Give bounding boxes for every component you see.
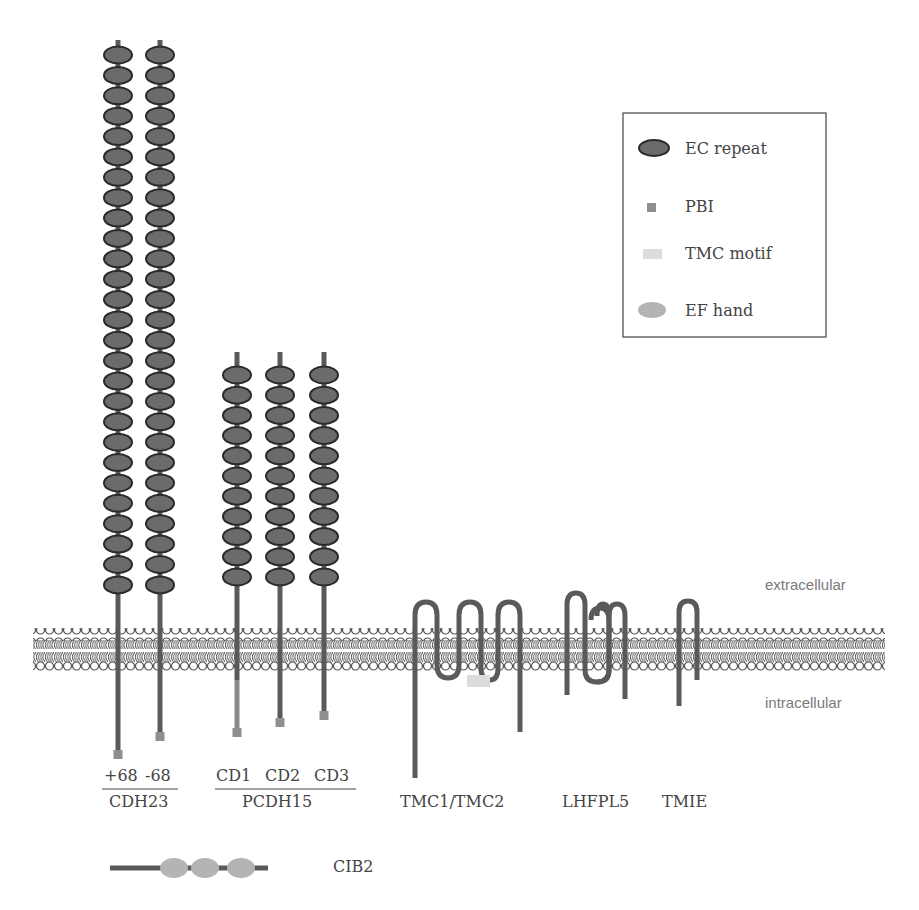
ec-repeat <box>104 250 132 267</box>
ec-repeat <box>266 528 294 545</box>
ec-repeat <box>146 576 174 593</box>
ec-repeat <box>146 536 174 553</box>
ec-repeat <box>104 454 132 471</box>
ec-repeat <box>146 434 174 451</box>
ef-hand-1 <box>160 858 188 878</box>
ec-repeat <box>310 427 338 444</box>
ec-repeat <box>223 508 251 525</box>
ec-repeat <box>146 454 174 471</box>
ec-repeat <box>146 210 174 227</box>
ec-repeat <box>104 393 132 410</box>
pcdh15-cd1-strand <box>223 352 251 737</box>
ec-repeat <box>104 67 132 84</box>
ec-repeat <box>310 528 338 545</box>
ec-repeat <box>104 434 132 451</box>
tmc-label: TMC1/TMC2 <box>400 792 504 811</box>
ec-repeat <box>104 515 132 532</box>
ec-repeat <box>223 569 251 586</box>
tmc-motif-legend-icon <box>643 249 662 259</box>
ec-repeat <box>223 488 251 505</box>
ec-repeat <box>146 332 174 349</box>
ec-repeat <box>104 413 132 430</box>
ec-repeat <box>266 367 294 384</box>
ec-repeat <box>223 528 251 545</box>
ec-repeat <box>266 488 294 505</box>
mechanotransduction-complex-diagram: extracellular intracellular +68 -68 CDH2… <box>0 0 919 910</box>
ec-repeat <box>146 230 174 247</box>
ec-repeat <box>146 189 174 206</box>
ec-repeat <box>146 271 174 288</box>
ec-repeat <box>310 569 338 586</box>
ec-repeat <box>266 508 294 525</box>
cdh23-isoform-plus68: +68 <box>104 766 138 785</box>
ec-repeat <box>104 352 132 369</box>
ec-repeat <box>223 387 251 404</box>
ec-repeat <box>104 148 132 165</box>
ec-repeat <box>104 576 132 593</box>
pcdh15-isoform-cd1: CD1 <box>216 766 251 785</box>
pbi-domain <box>156 732 165 741</box>
ec-repeat <box>146 250 174 267</box>
legend-pbi: PBI <box>685 197 714 216</box>
legend-ec-repeat: EC repeat <box>685 139 767 158</box>
ec-repeat <box>146 474 174 491</box>
ec-repeat <box>310 468 338 485</box>
ec-repeat <box>146 515 174 532</box>
ec-repeat <box>146 495 174 512</box>
pcdh15-label: PCDH15 <box>242 792 312 811</box>
pbi-legend-icon <box>647 203 656 212</box>
ec-repeat <box>266 387 294 404</box>
ec-repeat <box>104 495 132 512</box>
cdh23-label: CDH23 <box>109 792 168 811</box>
pbi-domain <box>276 718 285 727</box>
ec-repeat <box>146 373 174 390</box>
ec-repeat <box>223 548 251 565</box>
tmc-motif <box>467 675 490 687</box>
ec-repeat <box>104 291 132 308</box>
ec-repeat <box>104 189 132 206</box>
ec-repeat <box>310 447 338 464</box>
ec-repeat <box>266 468 294 485</box>
tmie-label: TMIE <box>662 792 707 811</box>
ef-hand-2 <box>191 858 219 878</box>
ec-repeat <box>146 148 174 165</box>
ec-repeat <box>104 271 132 288</box>
ef-hand-3 <box>227 858 255 878</box>
ec-repeat-legend-icon <box>639 140 669 156</box>
ec-repeat <box>266 447 294 464</box>
ec-repeat <box>146 556 174 573</box>
ec-repeat <box>104 474 132 491</box>
ec-repeat <box>104 536 132 553</box>
pbi-domain <box>114 750 123 759</box>
ec-repeat <box>146 352 174 369</box>
ef-hand-legend-icon <box>638 302 666 318</box>
lhfpl5-label: LHFPL5 <box>562 792 629 811</box>
ec-repeat <box>266 548 294 565</box>
ec-repeat <box>104 373 132 390</box>
ec-repeat <box>104 169 132 186</box>
legend-ef-hand: EF hand <box>685 301 753 320</box>
ec-repeat <box>310 508 338 525</box>
ec-repeat <box>104 47 132 64</box>
ec-repeat <box>310 548 338 565</box>
ec-repeat <box>104 87 132 104</box>
legend-tmc-motif: TMC motif <box>685 244 773 263</box>
pcdh15-group <box>223 352 338 737</box>
ec-repeat <box>104 332 132 349</box>
pbi-domain <box>320 711 329 720</box>
ec-repeat <box>146 128 174 145</box>
ec-repeat <box>146 108 174 125</box>
pcdh15-isoform-cd2: CD2 <box>265 766 300 785</box>
ec-repeat <box>310 488 338 505</box>
cib2-label: CIB2 <box>333 857 374 876</box>
ec-repeat <box>266 427 294 444</box>
ec-repeat <box>146 413 174 430</box>
ec-repeat <box>266 569 294 586</box>
ec-repeat <box>223 407 251 424</box>
ec-repeat <box>146 291 174 308</box>
ec-repeat <box>146 87 174 104</box>
ec-repeat <box>146 47 174 64</box>
ec-repeat <box>104 311 132 328</box>
ec-repeat <box>310 367 338 384</box>
pbi-domain <box>233 728 242 737</box>
